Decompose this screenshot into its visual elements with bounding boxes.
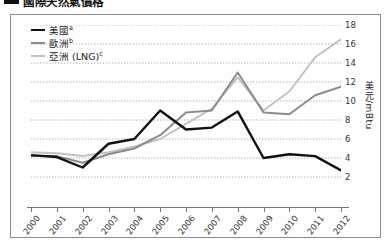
y-axis-tick-label: 6 [345, 135, 350, 143]
legend-footnote-marker: c [99, 50, 103, 58]
x-axis-tick-mark [57, 207, 58, 212]
chart-title-strip: 國際天然氣價格 [0, 0, 391, 11]
legend-item: 亞洲 (LNG)c [31, 50, 103, 62]
x-axis-tick-label: 2004 [125, 214, 145, 237]
x-axis-tick-labels: 2000200120022003200420052006200720082009… [31, 207, 341, 244]
title-bullet-icon [4, 0, 19, 4]
legend-footnote-marker: a [69, 24, 73, 32]
legend-footnote-marker: b [69, 37, 73, 45]
legend-line-swatch [31, 42, 45, 44]
x-axis-tick-mark [315, 207, 316, 212]
x-axis-tick-label: 2005 [151, 214, 171, 237]
x-axis-tick-mark [264, 207, 265, 212]
x-axis-tick-mark [134, 207, 135, 212]
x-axis-tick-label: 2011 [306, 214, 326, 237]
x-axis-tick-label: 2002 [73, 214, 93, 237]
y-axis-tick-label: 10 [345, 97, 356, 105]
page-title-row: 國際天然氣價格 [4, 0, 104, 9]
x-axis-tick-label: 2001 [48, 214, 68, 237]
legend-item-label: 歐洲b [49, 36, 73, 49]
y-axis-tick-label: 8 [345, 116, 350, 124]
x-axis-tick-label: 2006 [177, 214, 197, 237]
x-axis-tick-label: 2000 [22, 214, 42, 237]
x-axis-tick-mark [160, 207, 161, 212]
legend-item: 歐洲b [31, 37, 103, 49]
legend-line-swatch [31, 29, 45, 31]
y-axis-tick-label: 18 [345, 21, 356, 29]
x-axis-tick-mark [238, 207, 239, 212]
x-axis-tick-label: 2010 [280, 214, 300, 237]
y-axis-tick-label: 4 [345, 154, 350, 162]
x-axis-tick-label: 2008 [228, 214, 248, 237]
x-axis-tick-mark [31, 207, 32, 212]
y-axis-tick-labels: 24681012141618 [343, 25, 365, 196]
x-axis-tick-mark [83, 207, 84, 212]
x-axis-tick-label: 2003 [99, 214, 119, 237]
x-axis-tick-mark [212, 207, 213, 212]
x-axis-tick-label: 2009 [254, 214, 274, 237]
y-axis-tick-label: 14 [345, 59, 356, 67]
legend-line-swatch [31, 55, 45, 57]
x-axis-tick-label: 2012 [332, 214, 352, 237]
y-axis-title: 美元/mBtu [363, 81, 376, 130]
x-axis-tick-mark [289, 207, 290, 212]
y-axis-tick-label: 2 [345, 173, 350, 181]
x-axis-tick-label: 2007 [203, 214, 223, 237]
chart-legend: 美國a歐洲b亞洲 (LNG)c [31, 24, 103, 63]
y-axis-tick-label: 16 [345, 40, 356, 48]
legend-item-label: 美國a [49, 23, 73, 36]
figure-frame: 美國a歐洲b亞洲 (LNG)c 24681012141618 美元/mBtu 2… [10, 14, 381, 238]
y-axis-tick-label: 12 [345, 78, 356, 86]
legend-item: 美國a [31, 24, 103, 36]
page-title: 國際天然氣價格 [23, 0, 104, 9]
legend-item-label: 亞洲 (LNG)c [49, 49, 103, 62]
x-axis-tick-mark [341, 207, 342, 212]
x-axis-tick-mark [109, 207, 110, 212]
x-axis-tick-mark [186, 207, 187, 212]
